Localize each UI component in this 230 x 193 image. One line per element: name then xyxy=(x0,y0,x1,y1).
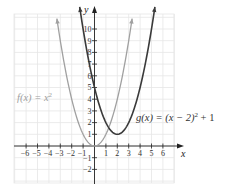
x-tick-label: −4 xyxy=(44,149,53,158)
y-tick-label: 3 xyxy=(88,107,92,116)
labels: −6−5−4−3−2−1123456−2−112345678910xyf(x) … xyxy=(17,4,214,174)
f-label: f(x) = x2 xyxy=(17,91,53,104)
y-tick-label: −1 xyxy=(83,154,92,163)
x-tick-label: −2 xyxy=(66,149,75,158)
x-tick-label: 2 xyxy=(115,149,119,158)
x-tick-label: 4 xyxy=(138,149,142,158)
x-tick-label: 6 xyxy=(161,149,165,158)
x-tick-label: 5 xyxy=(150,149,154,158)
g-label: g(x) = (x − 2)2 + 1 xyxy=(136,111,214,124)
x-tick-label: −3 xyxy=(55,149,64,158)
y-tick-label: 9 xyxy=(88,37,92,46)
y-tick-label: 8 xyxy=(88,48,92,57)
y-tick-label: 10 xyxy=(84,25,92,34)
graph: −6−5−4−3−2−1123456−2−112345678910xyf(x) … xyxy=(0,0,230,193)
y-axis-label: y xyxy=(83,4,89,15)
x-tick-label: 1 xyxy=(104,149,108,158)
x-tick-label: −6 xyxy=(21,149,30,158)
y-tick-label: −2 xyxy=(83,165,92,174)
y-tick-label: 4 xyxy=(88,95,92,104)
y-tick-label: 6 xyxy=(88,72,92,81)
x-tick-label: 3 xyxy=(127,149,131,158)
y-tick-label: 5 xyxy=(88,83,92,92)
x-axis-label: x xyxy=(180,148,186,159)
y-axis-arrow-icon xyxy=(92,6,97,13)
y-tick-label: 2 xyxy=(88,118,92,127)
y-tick-label: 1 xyxy=(88,130,92,139)
y-tick-label: 7 xyxy=(88,60,92,69)
x-tick-label: −5 xyxy=(32,149,41,158)
